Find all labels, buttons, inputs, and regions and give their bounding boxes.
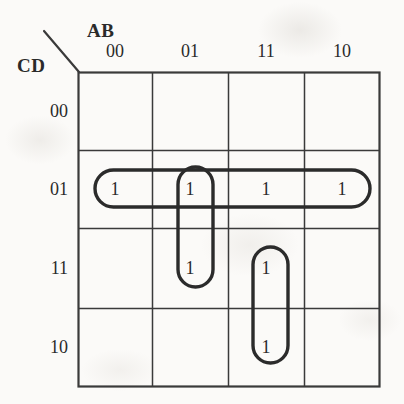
column-variable-label: AB — [87, 20, 114, 42]
row-header-2: 11 — [18, 258, 68, 279]
row-header-0: 00 — [18, 101, 68, 122]
header-divider — [44, 31, 79, 72]
column-header-2: 11 — [228, 41, 304, 62]
column-header-1: 01 — [152, 41, 228, 62]
cell-01-11: 1 — [228, 179, 304, 200]
row-header-3: 10 — [18, 337, 68, 358]
cell-11-01: 1 — [152, 258, 228, 279]
cell-01-00: 1 — [78, 179, 152, 200]
cell-01-10: 1 — [304, 179, 380, 200]
row-variable-label: CD — [17, 55, 45, 77]
cell-01-01: 1 — [152, 179, 228, 200]
kmap-page: AB CD 00 01 11 10 00 01 11 10 1 1 1 1 1 … — [0, 0, 404, 404]
column-header-3: 10 — [304, 41, 380, 62]
cell-11-11: 1 — [228, 258, 304, 279]
column-header-0: 00 — [78, 41, 152, 62]
row-header-1: 01 — [18, 179, 68, 200]
cell-10-11: 1 — [228, 337, 304, 358]
